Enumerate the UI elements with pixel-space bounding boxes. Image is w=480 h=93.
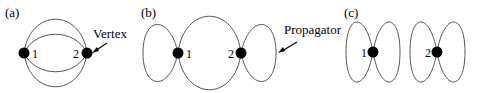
propagator-annotation: Propagator <box>284 22 342 37</box>
panel-a: (a) 1 2 Vertex <box>5 5 127 87</box>
panel-b: (b) 1 2 Propagator <box>141 5 342 90</box>
vertex-2 <box>82 48 93 59</box>
vertex-1-label: 1 <box>32 47 38 61</box>
vertex-1 <box>173 48 184 59</box>
panel-b-label: (b) <box>141 5 156 20</box>
vertex-2-label: 2 <box>73 47 79 61</box>
panel-c-label: (c) <box>344 5 358 20</box>
vertex-1 <box>368 47 379 58</box>
vertex-1-label: 1 <box>361 46 367 60</box>
vertex-1 <box>19 48 30 59</box>
panel-c: (c) 1 2 <box>344 5 465 82</box>
vertex-2-label: 2 <box>425 46 431 60</box>
arrow-icon <box>92 43 107 53</box>
vertex-2-label: 2 <box>228 47 234 61</box>
vertex-1-label: 1 <box>186 47 192 61</box>
vertex-2 <box>432 47 443 58</box>
vertex-2 <box>236 48 247 59</box>
panel-a-label: (a) <box>5 5 19 20</box>
feynman-diagram-figure: (a) 1 2 Vertex (b) 1 2 Propagator <box>0 0 480 93</box>
arrow-icon <box>278 42 297 53</box>
vertex-annotation: Vertex <box>93 26 127 41</box>
